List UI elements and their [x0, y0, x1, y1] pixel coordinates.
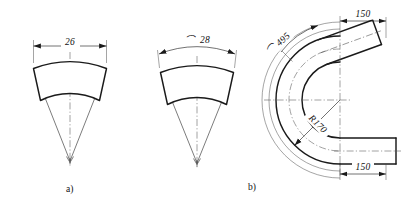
figure-a-dim-label: 26 — [65, 37, 75, 47]
figure-a-caption: a) — [66, 184, 73, 195]
technical-drawing: 26 a) ⌒ 28 b) — [0, 0, 401, 205]
figure-b-caption: b) — [248, 182, 256, 193]
drawing-canvas: 26 a) ⌒ 28 b) — [0, 0, 401, 205]
figure-b-dim-label: 28 — [200, 35, 210, 45]
figure-c-150-bottom-label: 150 — [355, 162, 370, 172]
figure-c-150-top-label: 150 — [355, 9, 370, 19]
figure-b-arc-symbol: ⌒ — [185, 34, 196, 45]
